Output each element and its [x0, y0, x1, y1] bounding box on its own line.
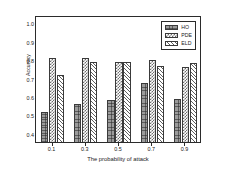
legend-swatch-pde — [165, 33, 178, 39]
bar-eld-0.1 — [57, 75, 64, 143]
bar-ho-0.7 — [141, 83, 148, 143]
y-axis-tick-label: 0.7 — [0, 76, 34, 84]
y-axis-tick-label: 0.5 — [0, 112, 34, 120]
x-axis-tick-label: 0.1 — [39, 146, 65, 152]
y-axis-tick-label: 1.0 — [0, 20, 34, 28]
bar-pde-0.7 — [149, 60, 156, 143]
x-axis-tick-label: 0.5 — [105, 146, 131, 152]
bar-eld-0.7 — [157, 66, 164, 143]
bar-ho-0.5 — [107, 100, 114, 143]
bar-ho-0.9 — [174, 99, 181, 143]
bar-pde-0.3 — [82, 58, 89, 143]
legend-item-eld: ELD — [165, 40, 192, 47]
legend-item-ho: HO — [165, 24, 192, 31]
x-axis-tick-mark — [118, 143, 119, 146]
legend-label-ho: HO — [181, 24, 189, 31]
x-axis-tick-label: 0.7 — [138, 146, 164, 152]
x-axis-tick-label: 0.3 — [72, 146, 98, 152]
bar-ho-0.3 — [74, 104, 81, 143]
legend-label-pde: PDE — [181, 32, 192, 39]
x-axis-tick-label: 0.9 — [171, 146, 197, 152]
x-axis-tick-mark — [85, 143, 86, 146]
y-axis-tick-label: 0.8 — [0, 57, 34, 65]
bar-eld-0.3 — [90, 62, 97, 143]
bar-eld-0.5 — [123, 62, 130, 143]
bar-pde-0.1 — [49, 58, 56, 143]
bar-eld-0.9 — [190, 63, 197, 143]
legend-swatch-eld — [165, 41, 178, 47]
bar-chart-figure: Accuracy 1.00.90.80.70.60.50.4 HO PDE EL… — [0, 0, 237, 174]
x-axis-tick-mark — [184, 143, 185, 146]
legend-label-eld: ELD — [181, 40, 191, 47]
y-axis-tick-label: 0.6 — [0, 94, 34, 102]
plot-area: HO PDE ELD — [35, 16, 201, 143]
y-axis-tick-label: 0.4 — [0, 131, 34, 139]
bar-ho-0.1 — [41, 112, 48, 143]
x-axis-tick-mark — [151, 143, 152, 146]
legend-item-pde: PDE — [165, 32, 192, 39]
x-axis-tick-mark — [52, 143, 53, 146]
legend-swatch-ho — [165, 25, 178, 31]
bar-pde-0.9 — [182, 67, 189, 143]
chart-legend: HO PDE ELD — [161, 21, 196, 50]
y-axis-tick-label: 0.9 — [0, 39, 34, 47]
bar-pde-0.5 — [115, 62, 122, 143]
x-axis-label: The probability of attack — [35, 156, 201, 162]
